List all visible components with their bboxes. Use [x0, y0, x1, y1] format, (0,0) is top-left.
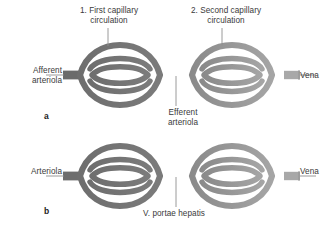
label-vena-panel-b: Vena	[300, 167, 334, 177]
panel-b-vessels	[46, 146, 316, 207]
figure-canvas: 1. First capillary circulation 2. Second…	[0, 0, 336, 235]
panel-letter-b: b	[44, 206, 49, 216]
label-first-capillary-circulation: 1. First capillary circulation	[64, 6, 154, 26]
label-vena-portae-hepatis: V. portae hepatis	[113, 209, 235, 219]
panel-b-vena-stub	[284, 172, 300, 180]
panel-b-arteriola-stub	[63, 172, 79, 181]
panel-a-afferent-stub	[63, 71, 79, 80]
label-afferent-arteriola: Afferent arteriola	[4, 66, 62, 86]
panel-letter-a: a	[44, 111, 49, 121]
label-arteriola-panel-b: Arteriola	[2, 167, 62, 177]
panel-a-vessels	[46, 28, 316, 106]
panel-a-vena-stub	[284, 71, 300, 79]
label-second-capillary-circulation: 2. Second capillary circulation	[176, 6, 276, 26]
label-efferent-arteriola: Efferent arteriola	[148, 108, 218, 128]
label-vena-panel-a: Vena	[300, 71, 334, 81]
